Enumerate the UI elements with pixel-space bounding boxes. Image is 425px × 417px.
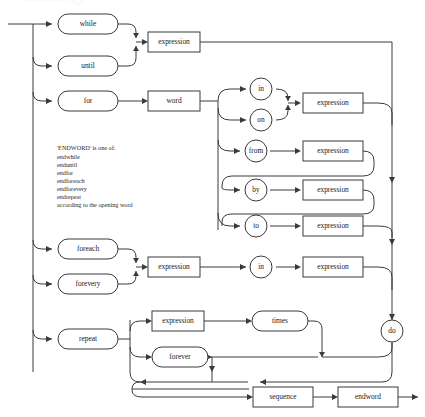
- endword-note-item-4: endforevery: [57, 185, 88, 192]
- node-endword-label: endword: [355, 392, 381, 401]
- node-forevery-label: forevery: [75, 279, 100, 288]
- node-forever-label: forever: [169, 352, 191, 361]
- endword-note: 'ENDWORD' is one of: endwhile enduntil e…: [57, 144, 134, 208]
- node-sequence[interactable]: sequence: [253, 387, 313, 407]
- node-on-label: on: [257, 115, 265, 124]
- node-in-lower[interactable]: in: [250, 256, 272, 278]
- node-repeat[interactable]: repeat: [58, 329, 118, 349]
- node-for-label: for: [84, 96, 93, 105]
- node-from-label: from: [249, 146, 264, 155]
- node-expression-by[interactable]: expression: [303, 180, 363, 200]
- railroad-diagram: while until expression for word in on ex…: [0, 0, 425, 417]
- endword-note-footer: according to the opening word: [57, 201, 134, 208]
- node-expression-in-lower[interactable]: expression: [303, 257, 363, 277]
- node-expression-in-on-label: expression: [317, 98, 349, 107]
- node-repeat-label: repeat: [79, 334, 98, 343]
- node-forevery[interactable]: forevery: [58, 274, 118, 294]
- node-do-label: do: [388, 326, 396, 335]
- node-in-lower-label: in: [258, 262, 264, 271]
- node-expression-to-label: expression: [317, 221, 349, 230]
- node-from[interactable]: from: [245, 140, 267, 162]
- node-expression-foreach-label: expression: [158, 262, 190, 271]
- endword-note-heading: 'ENDWORD' is one of:: [57, 144, 116, 151]
- node-expression-repeat[interactable]: expression: [152, 311, 204, 331]
- node-expression-condition[interactable]: expression: [148, 32, 200, 52]
- node-foreach[interactable]: foreach: [58, 239, 118, 259]
- node-expression-by-label: expression: [317, 185, 349, 194]
- node-expression-condition-label: expression: [158, 37, 190, 46]
- node-until[interactable]: until: [58, 56, 118, 76]
- node-expression-to[interactable]: expression: [303, 216, 363, 236]
- endword-note-item-5: endrepeat: [57, 193, 81, 200]
- node-sequence-label: sequence: [269, 392, 297, 401]
- node-word[interactable]: word: [148, 91, 200, 111]
- node-times-label: times: [272, 316, 288, 325]
- node-forever[interactable]: forever: [152, 347, 208, 367]
- node-endword[interactable]: endword: [338, 387, 398, 407]
- top-edge-artifact: [22, 0, 84, 5]
- node-expression-repeat-label: expression: [162, 316, 194, 325]
- node-on[interactable]: on: [250, 109, 272, 131]
- endword-note-item-0: endwhile: [57, 153, 80, 160]
- endword-note-item-1: enduntil: [57, 161, 78, 168]
- node-by[interactable]: by: [245, 179, 267, 201]
- node-foreach-label: foreach: [77, 244, 99, 253]
- node-expression-in-lower-label: expression: [317, 262, 349, 271]
- node-for[interactable]: for: [58, 91, 118, 111]
- node-times[interactable]: times: [252, 311, 308, 331]
- node-in-upper-label: in: [258, 84, 264, 93]
- node-expression-in-on[interactable]: expression: [303, 93, 363, 113]
- node-in-upper[interactable]: in: [250, 78, 272, 100]
- node-expression-from-label: expression: [317, 146, 349, 155]
- node-by-label: by: [252, 185, 260, 194]
- node-word-label: word: [166, 96, 181, 105]
- node-while[interactable]: while: [58, 14, 118, 34]
- node-to-label: to: [253, 221, 259, 230]
- node-expression-from[interactable]: expression: [303, 141, 363, 161]
- node-until-label: until: [81, 61, 95, 70]
- endword-note-item-2: endfor: [57, 169, 73, 176]
- node-while-label: while: [80, 19, 97, 28]
- node-expression-foreach[interactable]: expression: [148, 257, 200, 277]
- node-to[interactable]: to: [245, 215, 267, 237]
- endword-note-item-3: endforeach: [57, 177, 85, 184]
- node-do[interactable]: do: [381, 320, 403, 342]
